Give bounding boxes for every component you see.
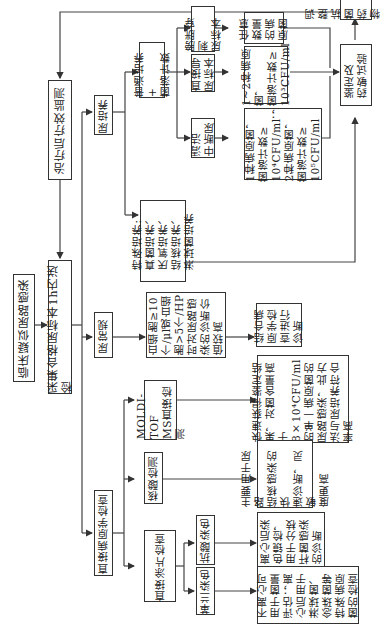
node-combine-pathogen: 结合病 原学检 查进行 诊断: [256, 303, 302, 347]
node-maldi-note: 快速获得鉴定结 果，对菌含量高 于8×10⁴CFU/ml 的单一病原菌的 尿路感…: [257, 355, 349, 443]
node-urine-culture: 尿培养: [94, 95, 113, 135]
node-gram-stain: 革兰染色: [196, 567, 215, 615]
node-routine-culture: 普通培养+ 菌落计数: [139, 42, 165, 98]
node-adjust-therapy: 调整抗菌 药物治疗: [340, 0, 372, 20]
uti-diagnosis-flowchart: 临床疑似尿路感染 采集合格尿标本1h内送检 治疗后疗效监测 尿培养 尿常规 直接…: [0, 0, 383, 627]
node-catheter-criteria: 1~2种病原菌， 菌落计数≥ 10³CFU/ml: [244, 46, 288, 104]
node-post-treatment-monitor: 治疗后疗效监测: [48, 80, 72, 180]
node-collect-specimen: 采集合格尿标本1h内送检: [48, 260, 72, 394]
node-acid-fast-stain: 抗酸染色: [196, 515, 215, 565]
node-clean-midstream: 清洁 中断尿: [191, 118, 215, 158]
node-urinalysis: 尿常规: [94, 312, 113, 358]
node-direct-pathogen: 直接病原学检查: [94, 490, 113, 576]
node-suprapubic-criteria: 任意 数量 的病 原菌: [244, 12, 284, 44]
node-midstream-criteria: 1种病原菌， 菌落计数≥ 10⁴CFU/ml； 2种病原菌， 菌落计数≥ 10⁵…: [244, 108, 322, 180]
node-nucleic-note: 主要用于尿路 结核感染的快 速诊断，灵敏 度更高: [257, 440, 313, 508]
node-identification-ast: 鉴定及 药敏试验: [340, 44, 372, 106]
node-wbc-criteria: 白细胞≥10 个/μl或白细 胞>5个/HP 时对尿路感 染的诊断价 值较高: [146, 292, 226, 358]
node-suspected-uti: 临床疑似尿路感染: [13, 274, 35, 382]
node-direct-smear: 直接涂片检查: [144, 530, 176, 602]
node-special-culture: 特殊培养: 真菌培养、 厌氧培养、 结核培养、 淋球菌培养: [140, 200, 186, 282]
node-acid-fast-note: 离心后染 色镜检， 用于分枝 杆菌感染 的诊断: [257, 512, 325, 570]
node-maldi-tof: MOLDI-TOF MS直接检测: [144, 380, 177, 440]
node-catheter-urine: 直接导 尿标本: [191, 54, 215, 92]
node-suprapubic: 膀胱穿刺 尿标本: [191, 6, 215, 52]
node-gram-note: 不离心可 用于菌量 评估；离 心后用于 淋球菌、 念珠菌等 特殊病原 菌的检查: [257, 566, 359, 624]
node-nucleic-acid: 核酸检测: [144, 452, 163, 504]
